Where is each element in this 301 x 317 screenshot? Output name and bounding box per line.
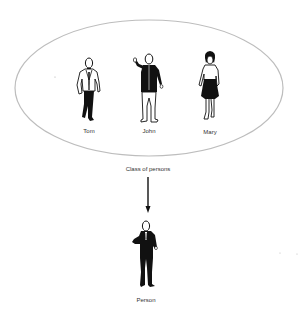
member-label-tom: Tom (83, 128, 94, 134)
man-in-suit-icon (132, 221, 157, 287)
member-label-john: John (142, 128, 155, 134)
arrow-down-icon (146, 177, 151, 213)
class-label: Class of persons (126, 166, 171, 172)
woman-in-skirt-icon (199, 51, 219, 119)
member-label-mary: Mary (203, 129, 216, 135)
man-waving-icon (133, 54, 163, 122)
man-in-jacket-icon (77, 58, 100, 121)
person-label: Person (136, 297, 155, 303)
diagram-canvas: Tom John Mary Class of persons Person (0, 0, 301, 317)
